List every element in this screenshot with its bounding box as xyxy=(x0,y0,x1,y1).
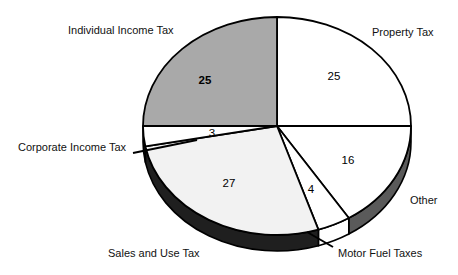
slice-value-property-tax: 25 xyxy=(328,70,341,82)
slice-value-sales-and-use-tax: 27 xyxy=(223,177,236,189)
slice-label-motor-fuel-taxes: Motor Fuel Taxes xyxy=(338,247,422,259)
pie-chart-figure: 2516427325 Property Tax Other Motor Fuel… xyxy=(0,0,458,275)
slice-label-other: Other xyxy=(410,194,438,206)
slice-value-corporate-income-tax: 3 xyxy=(209,127,215,139)
slice-value-motor-fuel-taxes: 4 xyxy=(308,183,315,195)
slice-label-individual-income-tax: Individual Income Tax xyxy=(68,24,174,36)
slice-value-other: 16 xyxy=(342,154,355,166)
slice-label-corporate-income-tax: Corporate Income Tax xyxy=(18,141,126,153)
pie-chart-svg: 2516427325 xyxy=(0,0,458,275)
slice-label-property-tax: Property Tax xyxy=(372,26,434,38)
slice-label-sales-and-use-tax: Sales and Use Tax xyxy=(108,247,200,259)
slice-value-individual-income-tax: 25 xyxy=(199,74,212,86)
